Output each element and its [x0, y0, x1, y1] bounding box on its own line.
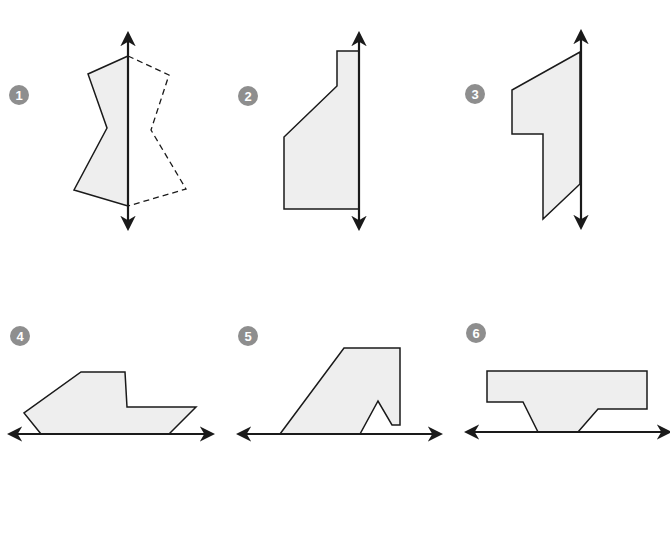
- number-badge: 4: [10, 326, 30, 346]
- reflected-image-dashed: [128, 56, 186, 206]
- badge-number: 2: [244, 89, 251, 104]
- badge-number: 4: [16, 329, 24, 344]
- figure-shape: [512, 52, 580, 219]
- number-badge: 2: [238, 86, 258, 106]
- number-badge: 6: [466, 323, 486, 343]
- figure-3: 3: [465, 32, 581, 227]
- badge-number: 6: [472, 326, 479, 341]
- badge-number: 5: [244, 329, 251, 344]
- figure-shape: [280, 348, 400, 434]
- figure-shape: [24, 372, 196, 434]
- figure-6: 6: [466, 323, 669, 432]
- number-badge: 5: [238, 326, 258, 346]
- number-badge: 3: [465, 84, 485, 104]
- figure-4: 4: [10, 326, 212, 434]
- reflection-diagram: 123456: [0, 0, 670, 559]
- figure-shape: [487, 371, 647, 432]
- badge-number: 1: [15, 88, 22, 103]
- badge-number: 3: [471, 87, 478, 102]
- figure-1: 1: [9, 34, 186, 228]
- figure-5: 5: [238, 326, 440, 434]
- number-badge: 1: [9, 85, 29, 105]
- figure-shape: [74, 56, 128, 206]
- figure-2: 2: [238, 34, 359, 228]
- figure-shape: [284, 51, 359, 209]
